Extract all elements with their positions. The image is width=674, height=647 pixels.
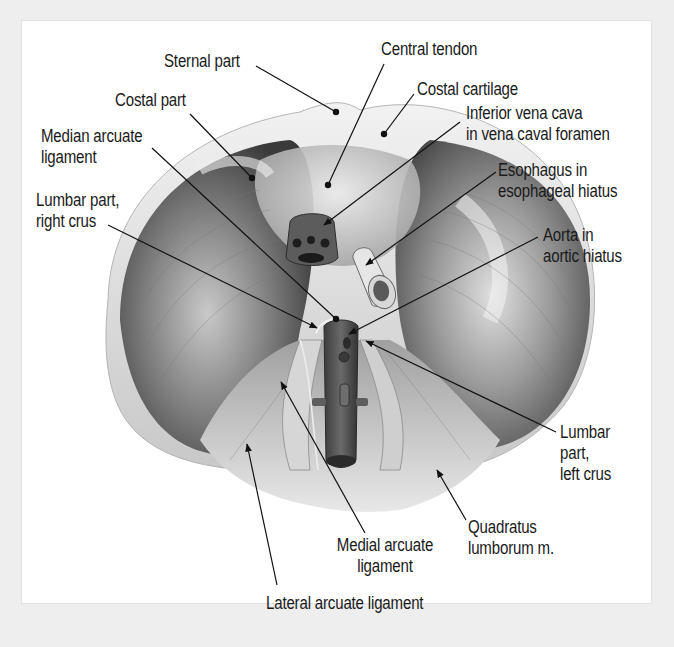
leader-dot-median-arcuate-ligament [333,316,339,322]
label-quadratus-lumborum: Quadratus lumborum m. [468,517,554,559]
leader-line-sternal-part [256,66,336,112]
label-central-tendon: Central tendon [381,39,477,60]
inferior-vena-cava-shape [286,214,338,266]
label-aorta: Aorta in aortic hiatus [543,225,622,267]
label-inferior-vena-cava: Inferior vena cava in vena caval foramen [466,103,610,145]
label-costal-cartilage: Costal cartilage [417,79,518,100]
label-costal-part: Costal part [115,90,186,111]
label-median-arcuate-ligament: Median arcuate ligament [41,126,142,168]
label-lumbar-part-left-crus: Lumbar part, left crus [560,422,611,485]
label-lumbar-part-right-crus: Lumbar part, right crus [36,190,119,232]
leader-dot-sternal-part [333,109,339,115]
leader-dot-costal-cartilage [381,131,387,137]
label-medial-arcuate-ligament: Medial arcuate ligament [333,535,436,577]
leader-dot-costal-part [249,175,255,181]
label-esophagus: Esophagus in esophageal hiatus [498,160,617,202]
leader-dot-central-tendon [325,182,331,188]
label-lateral-arcuate-ligament: Lateral arcuate ligament [266,593,423,614]
label-sternal-part: Sternal part [164,51,240,72]
